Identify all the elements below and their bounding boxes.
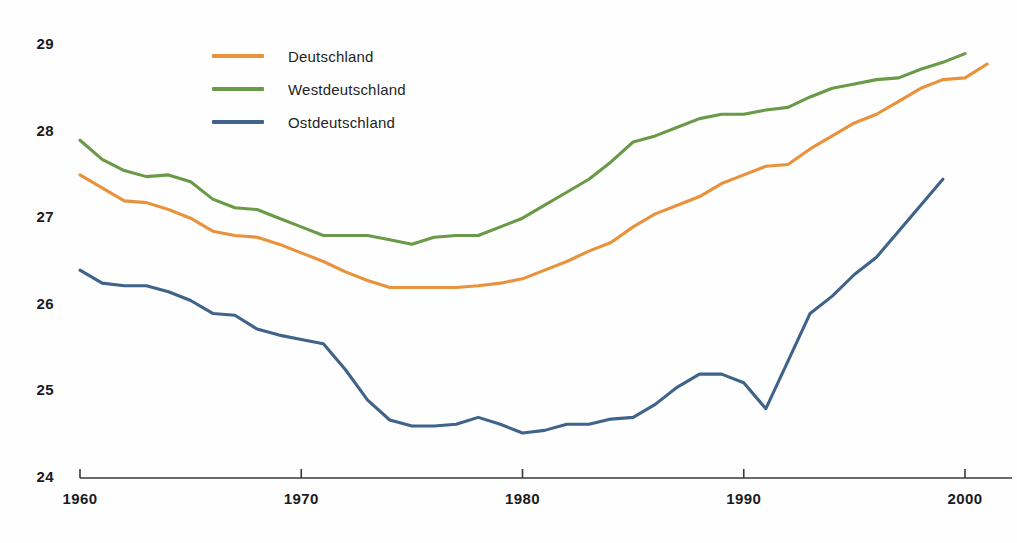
legend-item-ostdeutschland[interactable]: Ostdeutschland bbox=[212, 112, 406, 132]
chart-container: 242526272829 19601970198019902000 Deutsc… bbox=[0, 0, 1017, 543]
x-tick-label-2000: 2000 bbox=[925, 490, 1005, 507]
y-tick-label-29: 29 bbox=[14, 35, 54, 52]
legend-item-label: Ostdeutschland bbox=[288, 114, 395, 131]
y-tick-label-25: 25 bbox=[14, 381, 54, 398]
x-tick-label-1980: 1980 bbox=[483, 490, 563, 507]
y-tick-label-27: 27 bbox=[14, 208, 54, 225]
legend-item-westdeutschland[interactable]: Westdeutschland bbox=[212, 79, 406, 99]
x-tick-label-1970: 1970 bbox=[261, 490, 341, 507]
legend-item-label: Westdeutschland bbox=[288, 81, 406, 98]
y-tick-label-28: 28 bbox=[14, 122, 54, 139]
legend-item-label: Deutschland bbox=[288, 48, 374, 65]
legend-swatch-icon bbox=[212, 120, 264, 124]
axis-group bbox=[80, 469, 1012, 478]
legend-item-deutschland[interactable]: Deutschland bbox=[212, 46, 406, 66]
legend-swatch-icon bbox=[212, 87, 264, 91]
x-tick-label-1960: 1960 bbox=[40, 490, 120, 507]
y-tick-label-24: 24 bbox=[14, 468, 54, 485]
y-tick-label-26: 26 bbox=[14, 295, 54, 312]
series-line-ostdeutschland bbox=[80, 179, 943, 433]
x-tick-label-1990: 1990 bbox=[704, 490, 784, 507]
chart-legend: DeutschlandWestdeutschlandOstdeutschland bbox=[212, 46, 406, 132]
line-chart-plot bbox=[0, 0, 1017, 543]
legend-swatch-icon bbox=[212, 54, 264, 58]
